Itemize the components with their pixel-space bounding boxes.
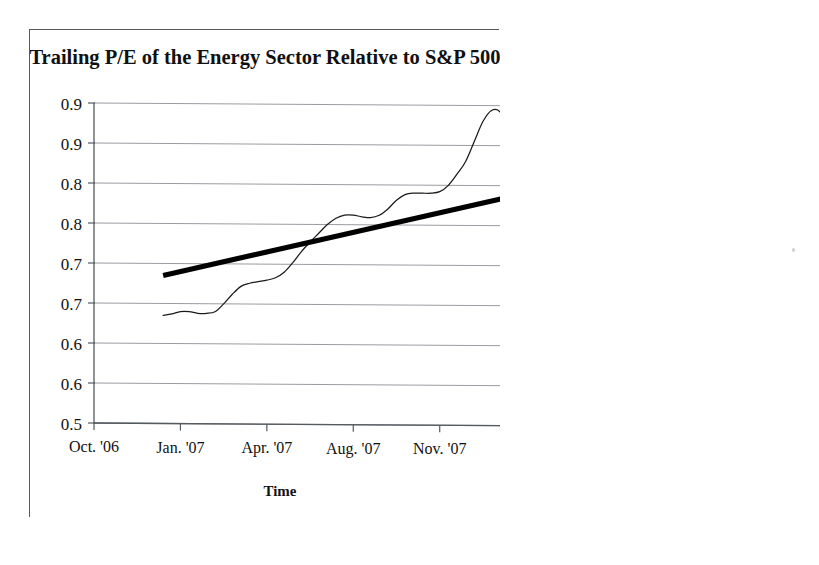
x-axis-title: Time bbox=[263, 483, 296, 499]
y-tick-label: 0.9 bbox=[61, 135, 82, 154]
x-tick-label: Apr. '07 bbox=[241, 439, 292, 457]
chart-frame: 0.90.90.80.80.70.70.60.60.5 Oct. '06Jan.… bbox=[29, 29, 499, 517]
y-tick-label: 0.6 bbox=[61, 375, 82, 394]
y-tick-label: 0.9 bbox=[61, 95, 82, 114]
y-axis-tick-labels: 0.90.90.80.80.70.70.60.60.5 bbox=[61, 95, 83, 434]
scan-speck bbox=[792, 248, 795, 252]
y-tick-label: 0.8 bbox=[61, 215, 82, 234]
chart-title: Trailing P/E of the Energy Sector Relati… bbox=[30, 46, 500, 69]
y-tick-label: 0.5 bbox=[61, 415, 82, 434]
y-tick-label: 0.6 bbox=[61, 335, 82, 354]
y-tick-label: 0.8 bbox=[61, 175, 82, 194]
x-tick-label: Jan. '07 bbox=[156, 439, 204, 456]
chart-canvas: 0.90.90.80.80.70.70.60.60.5 Oct. '06Jan.… bbox=[30, 30, 500, 518]
chart-figure: 0.90.90.80.80.70.70.60.60.5 Oct. '06Jan.… bbox=[0, 0, 819, 565]
x-tick-label: Nov. '07 bbox=[413, 440, 466, 457]
x-tick-label: Oct. '06 bbox=[69, 438, 119, 455]
x-tick-label: Aug. '07 bbox=[326, 440, 380, 458]
y-tick-label: 0.7 bbox=[61, 255, 83, 274]
y-tick-label: 0.7 bbox=[61, 295, 83, 314]
